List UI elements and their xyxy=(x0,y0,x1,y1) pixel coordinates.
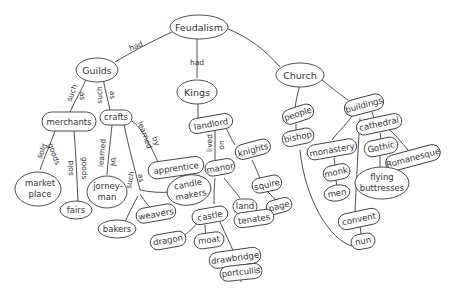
link-label-goods: goods xyxy=(80,157,89,180)
node-guilds[interactable]: Guilds xyxy=(76,58,118,82)
link-label-such: such xyxy=(95,86,104,104)
edge-merchants-fairs xyxy=(74,131,78,202)
node-moat[interactable]: moat xyxy=(193,231,225,250)
link-label-as: as xyxy=(136,173,146,183)
svg-text:merchants: merchants xyxy=(46,117,92,127)
svg-text:buttresses: buttresses xyxy=(360,183,405,193)
node-bakers[interactable]: bakers xyxy=(98,220,136,238)
node-monastery[interactable]: monastery xyxy=(306,138,358,161)
node-people[interactable]: people xyxy=(281,102,316,126)
node-monk[interactable]: monk xyxy=(322,162,352,182)
svg-text:jorney-: jorney- xyxy=(92,181,122,191)
node-kings[interactable]: Kings xyxy=(177,80,217,104)
node-knights[interactable]: knights xyxy=(234,137,273,161)
svg-text:land: land xyxy=(236,201,254,211)
node-manor[interactable]: manor xyxy=(204,157,236,177)
svg-text:man: man xyxy=(98,192,117,202)
node-fairs[interactable]: fairs xyxy=(60,201,92,219)
link-label-had: had xyxy=(190,58,204,67)
edge-church-buildings xyxy=(322,80,348,100)
svg-text:market: market xyxy=(25,178,56,188)
node-merchants[interactable]: merchants xyxy=(42,112,96,131)
node-jorneyman[interactable]: jorney- man xyxy=(87,176,127,208)
node-squire[interactable]: squire xyxy=(251,174,283,195)
svg-text:Kings: Kings xyxy=(184,87,210,98)
edge-buildings-monastery xyxy=(332,116,352,140)
edge-manor-castle xyxy=(214,178,215,204)
node-dragon[interactable]: dragon xyxy=(149,230,187,251)
link-label-learned: learned xyxy=(96,138,107,167)
node-flying-buttresses[interactable]: flying buttresses xyxy=(355,167,409,199)
node-convent[interactable]: convent xyxy=(337,207,381,231)
node-market-place[interactable]: market place xyxy=(15,172,61,206)
link-label-goods: goods xyxy=(46,142,62,166)
edge-such-candlemakers xyxy=(140,190,170,192)
node-nun[interactable]: nun xyxy=(350,232,376,251)
node-landlord[interactable]: landlord xyxy=(188,112,234,134)
link-label-had: had xyxy=(128,39,145,53)
node-church[interactable]: Church xyxy=(276,63,324,87)
node-buildings[interactable]: buildings xyxy=(343,92,386,118)
edge-feudalism-church xyxy=(226,28,280,67)
svg-text:place: place xyxy=(29,189,52,199)
edge-knights-squire xyxy=(252,160,260,178)
link-label-as: as xyxy=(78,92,87,101)
node-feudalism[interactable]: Feudalism xyxy=(170,15,228,39)
link-label-on: on xyxy=(217,140,226,150)
link-label-such: such xyxy=(65,83,80,103)
link-label-sold: sold xyxy=(66,160,75,176)
svg-text:crafts: crafts xyxy=(104,112,129,122)
svg-text:Guilds: Guilds xyxy=(82,65,112,76)
link-label-learned: learned xyxy=(136,120,154,150)
node-castle[interactable]: castle xyxy=(191,205,229,226)
edge-church-people xyxy=(295,84,300,108)
node-cathedral[interactable]: cathedral xyxy=(355,112,403,136)
concept-map: had had such as such as sold goods sold … xyxy=(0,0,458,300)
link-label-lived: lived xyxy=(205,134,214,152)
node-weavers[interactable]: weavers xyxy=(135,203,177,225)
svg-text:Church: Church xyxy=(283,70,317,81)
svg-text:bakers: bakers xyxy=(103,224,132,234)
node-men[interactable]: men xyxy=(323,183,351,203)
nodes: Feudalism Guilds Kings Church merchants … xyxy=(15,15,442,282)
svg-text:flying: flying xyxy=(370,172,394,182)
link-label-as: as xyxy=(108,91,117,100)
node-crafts[interactable]: crafts xyxy=(100,110,132,125)
svg-text:Feudalism: Feudalism xyxy=(175,22,223,33)
edge-monastery-monk xyxy=(334,158,335,165)
edge-buildings-cathedral xyxy=(372,112,374,118)
node-bishop[interactable]: bishop xyxy=(281,127,315,148)
link-label-by: by xyxy=(108,156,119,168)
edge-manor-land xyxy=(224,178,240,198)
svg-text:fairs: fairs xyxy=(67,205,86,215)
